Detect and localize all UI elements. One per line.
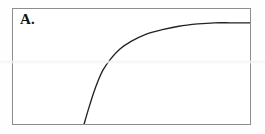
panel-frame-border: A. bbox=[12, 8, 251, 125]
plot-area bbox=[13, 9, 250, 124]
saturating-curve-line bbox=[84, 23, 250, 124]
panel-label: A. bbox=[20, 12, 35, 27]
figure-panel-screenshot: A. bbox=[0, 0, 265, 134]
